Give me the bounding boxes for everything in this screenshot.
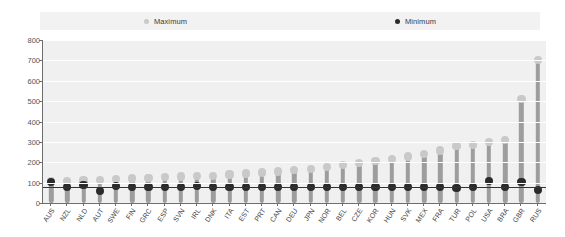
x-axis-tick-label: USA xyxy=(480,207,494,223)
minimum-marker[interactable] xyxy=(452,184,460,192)
legend-item-maximum[interactable]: Maximum xyxy=(144,17,187,26)
range-stem xyxy=(438,150,442,203)
range-stem xyxy=(454,146,458,203)
x-axis-label-cell: ESP xyxy=(156,205,172,237)
x-axis-tick-label: SWE xyxy=(106,207,121,224)
x-axis-tick-label: SVN xyxy=(172,207,186,223)
x-axis-tick-label: ITA xyxy=(223,207,235,220)
x-axis-tick-mark xyxy=(83,203,84,206)
x-axis-tick-mark xyxy=(261,203,262,206)
y-axis-tick-label: 0 xyxy=(6,199,40,208)
x-axis-tick-mark xyxy=(115,203,116,206)
x-axis-tick-mark xyxy=(407,203,408,206)
x-axis-label-cell: JPN xyxy=(302,205,318,237)
x-axis-tick-mark xyxy=(504,203,505,206)
x-axis-tick-mark xyxy=(245,203,246,206)
maximum-marker[interactable] xyxy=(258,168,266,176)
x-axis-tick-mark xyxy=(131,203,132,206)
x-axis-label-cell: BRA xyxy=(496,205,512,237)
x-axis-tick-label: GBR xyxy=(512,207,526,224)
x-axis-tick-label: AUS xyxy=(42,207,56,223)
x-axis-tick-label: CAN xyxy=(269,207,283,223)
x-axis-label-cell: CZE xyxy=(350,205,366,237)
x-axis-tick-label: PRT xyxy=(253,207,267,223)
x-axis-labels: AUSNZLNLDAUTSWEFINGRCESPSVNIRLDNKITAESTP… xyxy=(42,205,545,237)
x-axis-label-cell: KOR xyxy=(366,205,382,237)
x-axis-label-cell: PRT xyxy=(253,205,269,237)
x-axis-tick-label: AUT xyxy=(91,207,105,223)
maximum-marker[interactable] xyxy=(371,157,379,165)
x-axis-tick-mark xyxy=(520,203,521,206)
x-axis-tick-mark xyxy=(342,203,343,206)
maximum-marker[interactable] xyxy=(452,142,460,150)
maximum-marker[interactable] xyxy=(209,172,217,180)
maximum-marker[interactable] xyxy=(242,169,250,177)
x-axis-label-cell: DEU xyxy=(285,205,301,237)
maximum-marker[interactable] xyxy=(161,173,169,181)
x-axis-tick-label: KOR xyxy=(366,207,380,224)
x-axis-tick-label: NLD xyxy=(75,207,89,223)
y-axis-tick-label: 800 xyxy=(6,36,40,45)
x-axis-tick-mark xyxy=(293,203,294,206)
range-stem xyxy=(503,140,507,203)
x-axis-label-cell: POL xyxy=(464,205,480,237)
maximum-marker[interactable] xyxy=(323,163,331,171)
x-axis-tick-mark xyxy=(537,203,538,206)
x-axis-label-cell: SVK xyxy=(399,205,415,237)
maximum-marker[interactable] xyxy=(193,172,201,180)
x-axis-tick-mark xyxy=(374,203,375,206)
gridline xyxy=(43,81,546,82)
range-stem xyxy=(487,142,491,203)
x-axis-label-cell: FIN xyxy=(123,205,139,237)
x-axis-tick-mark xyxy=(50,203,51,206)
maximum-marker[interactable] xyxy=(420,150,428,158)
x-axis-tick-mark xyxy=(212,203,213,206)
x-axis-label-cell: EST xyxy=(237,205,253,237)
y-axis-tick-label: 100 xyxy=(6,178,40,187)
maximum-marker[interactable] xyxy=(436,146,444,154)
maximum-marker[interactable] xyxy=(355,159,363,167)
y-axis: 8007006005004003002001000 xyxy=(0,40,40,204)
x-axis-tick-mark xyxy=(439,203,440,206)
x-axis-tick-label: MEX xyxy=(414,207,428,224)
y-axis-tick-label: 400 xyxy=(6,117,40,126)
maximum-marker[interactable] xyxy=(225,170,233,178)
legend-item-minimum[interactable]: Minimum xyxy=(395,17,436,26)
x-axis-label-cell: ITA xyxy=(220,205,236,237)
range-stem xyxy=(535,60,539,203)
maximum-marker[interactable] xyxy=(177,172,185,180)
chart-container: Maximum Minimum 800700600500400300200100… xyxy=(0,0,565,237)
gridline xyxy=(43,183,546,184)
range-stem xyxy=(390,159,394,203)
x-axis-tick-mark xyxy=(391,203,392,206)
x-axis-label-cell: SWE xyxy=(107,205,123,237)
gridline xyxy=(43,122,546,123)
maximum-marker[interactable] xyxy=(274,167,282,175)
maximum-marker[interactable] xyxy=(128,174,136,182)
gridline xyxy=(43,40,546,41)
maximum-marker[interactable] xyxy=(404,152,412,160)
x-axis-tick-mark xyxy=(147,203,148,206)
x-axis-tick-label: NZL xyxy=(59,207,72,222)
x-axis-tick-mark xyxy=(164,203,165,206)
x-axis-label-cell: FRA xyxy=(431,205,447,237)
x-axis-label-cell: RUS xyxy=(529,205,545,237)
minimum-marker[interactable] xyxy=(47,178,55,186)
x-axis-label-cell: HUN xyxy=(383,205,399,237)
maximum-marker[interactable] xyxy=(144,174,152,182)
x-axis-label-cell: TUR xyxy=(447,205,463,237)
minimum-marker[interactable] xyxy=(485,177,493,185)
x-axis-tick-mark xyxy=(66,203,67,206)
minimum-marker[interactable] xyxy=(96,187,104,195)
x-axis-tick-mark xyxy=(358,203,359,206)
legend-swatch-minimum xyxy=(395,19,400,24)
range-stem xyxy=(406,157,410,203)
x-axis-label-cell: CAN xyxy=(269,205,285,237)
maximum-marker[interactable] xyxy=(290,166,298,174)
chart-legend: Maximum Minimum xyxy=(40,12,540,30)
x-axis-tick-label: POL xyxy=(464,207,478,223)
x-axis-tick-label: NOR xyxy=(317,207,332,224)
x-axis-label-cell: USA xyxy=(480,205,496,237)
x-axis-label-cell: NOR xyxy=(318,205,334,237)
maximum-marker[interactable] xyxy=(307,165,315,173)
